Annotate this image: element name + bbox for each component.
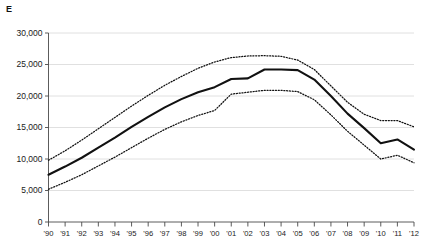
x-axis-tick-label: '99 [193,229,203,238]
x-axis-tick-label: '06 [309,229,319,238]
x-axis-tick-label: '00 [210,229,220,238]
y-axis-tick-label: 20,000 [17,91,43,101]
x-axis-tick-label: '12 [409,229,419,238]
series-line-lower-bound [49,90,415,189]
line-chart-plot: 05,00010,00015,00020,00025,00030,000 '90… [0,0,423,250]
x-axis-tick-label: '09 [359,229,369,238]
x-axis-tick-label: '98 [176,229,186,238]
x-axis-tick-label: '10 [376,229,386,238]
x-axis-tick-label: '93 [93,229,103,238]
x-axis-tick-label: '02 [243,229,253,238]
x-axis-tick-label: '11 [393,229,402,238]
y-axis-tick-labels: 05,00010,00015,00020,00025,00030,000 [17,28,43,227]
x-axis-tick-label: '97 [160,229,170,238]
data-series [49,56,415,190]
y-axis-tick-label: 30,000 [17,28,43,38]
x-axis-tick-label: '04 [276,229,286,238]
x-axis-tick-label: '92 [77,229,87,238]
x-axis-tick-label: '90 [44,229,54,238]
x-axis-tick-label: '95 [127,229,137,238]
y-axis-tick-label: 25,000 [17,59,43,69]
gridlines [49,33,415,191]
x-axis-tick-marks [49,222,415,227]
x-axis-tick-label: '07 [326,229,336,238]
y-axis-tick-label: 5,000 [21,185,43,195]
x-axis-tick-label: '91 [60,229,70,238]
chart-container: E 05,00010,00015,00020,00025,00030,000 '… [0,0,423,250]
x-axis-tick-label: '96 [143,229,153,238]
x-axis-tick-label: '03 [260,229,270,238]
x-axis-tick-label: '94 [110,229,120,238]
x-axis-tick-label: '01 [226,229,236,238]
x-axis-tick-labels: '90'91'92'93'94'95'96'97'98'99'00'01'02'… [44,229,419,238]
y-axis-tick-label: 0 [38,217,43,227]
y-axis-tick-label: 10,000 [17,154,43,164]
x-axis-tick-label: '08 [343,229,353,238]
y-axis-tick-label: 15,000 [17,122,43,132]
x-axis-tick-label: '05 [293,229,303,238]
